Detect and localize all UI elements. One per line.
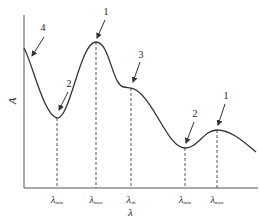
tick-lambda-max-1: λmax (90, 194, 103, 205)
annotation-1-left: 1 (104, 6, 109, 17)
arrow-2b (186, 122, 194, 143)
arrow-4 (32, 37, 44, 56)
arrow-1a (97, 20, 105, 38)
arrow-1b (218, 104, 225, 125)
y-axis-title: A (6, 98, 18, 105)
annotation-2-right: 2 (193, 108, 198, 119)
x-axis-title: λ (128, 206, 133, 218)
tick-lambda-max-2: λmax (211, 194, 224, 205)
annotation-1-right: 1 (224, 90, 229, 101)
spectrum-diagram (0, 0, 260, 220)
annotation-3: 3 (139, 49, 144, 60)
annotation-2-left: 2 (67, 78, 72, 89)
tick-lambda-min-1: λmin (51, 194, 63, 205)
arrow-3 (133, 62, 140, 82)
tick-lambda-min-2: λmin (179, 194, 191, 205)
tick-lambda-sh: λsh (127, 194, 136, 205)
annotation-4: 4 (41, 22, 46, 33)
